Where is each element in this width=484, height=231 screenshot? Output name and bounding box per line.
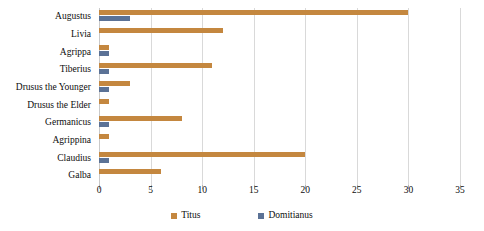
bar-titus[interactable] bbox=[99, 152, 305, 157]
bar-domitianus[interactable] bbox=[99, 16, 130, 21]
legend-item[interactable]: Titus bbox=[171, 211, 200, 221]
bar-row bbox=[99, 26, 460, 44]
bar-row bbox=[99, 8, 460, 26]
bar-domitianus[interactable] bbox=[99, 51, 109, 56]
bar-row bbox=[99, 132, 460, 150]
gridline bbox=[460, 8, 461, 185]
category-label: Livia bbox=[0, 26, 96, 44]
bar-titus[interactable] bbox=[99, 134, 109, 139]
bar-titus[interactable] bbox=[99, 116, 182, 121]
bar-titus[interactable] bbox=[99, 63, 212, 68]
category-label: Claudius bbox=[0, 150, 96, 168]
x-tick-label: 0 bbox=[97, 186, 102, 196]
legend-swatch-icon bbox=[258, 213, 264, 219]
bar-row bbox=[99, 43, 460, 61]
bar-row bbox=[99, 97, 460, 115]
category-label: Germanicus bbox=[0, 114, 96, 132]
category-label: Drusus the Elder bbox=[0, 97, 96, 115]
bar-domitianus[interactable] bbox=[99, 69, 109, 74]
x-tick-label: 35 bbox=[455, 186, 465, 196]
category-label: Agrippa bbox=[0, 43, 96, 61]
category-axis: AugustusLiviaAgrippaTiberiusDrusus the Y… bbox=[0, 8, 96, 185]
x-tick-label: 10 bbox=[197, 186, 207, 196]
bar-row bbox=[99, 114, 460, 132]
chart-legend: TitusDomitianus bbox=[0, 208, 484, 224]
bar-titus[interactable] bbox=[99, 10, 408, 15]
category-label: Drusus the Younger bbox=[0, 79, 96, 97]
x-tick-label: 15 bbox=[249, 186, 259, 196]
bar-row bbox=[99, 61, 460, 79]
bar-row bbox=[99, 150, 460, 168]
bar-titus[interactable] bbox=[99, 99, 109, 104]
bar-titus[interactable] bbox=[99, 45, 109, 50]
bar-row bbox=[99, 79, 460, 97]
bar-chart: AugustusLiviaAgrippaTiberiusDrusus the Y… bbox=[0, 0, 484, 231]
category-label: Galba bbox=[0, 167, 96, 185]
plot-area bbox=[99, 8, 460, 185]
legend-label: Titus bbox=[181, 211, 200, 221]
legend-label: Domitianus bbox=[268, 211, 312, 221]
bar-domitianus[interactable] bbox=[99, 122, 109, 127]
bar-titus[interactable] bbox=[99, 28, 223, 33]
x-tick-label: 30 bbox=[404, 186, 414, 196]
bar-domitianus[interactable] bbox=[99, 87, 109, 92]
bar-rows bbox=[99, 8, 460, 185]
legend-item[interactable]: Domitianus bbox=[258, 211, 312, 221]
x-axis: 05101520253035 bbox=[99, 186, 460, 202]
bar-titus[interactable] bbox=[99, 81, 130, 86]
x-tick-label: 20 bbox=[301, 186, 311, 196]
bar-titus[interactable] bbox=[99, 169, 161, 174]
legend-swatch-icon bbox=[171, 213, 177, 219]
x-tick-label: 5 bbox=[148, 186, 153, 196]
bar-domitianus[interactable] bbox=[99, 158, 109, 163]
category-label: Agrippina bbox=[0, 132, 96, 150]
category-label: Augustus bbox=[0, 8, 96, 26]
plot-wrapper: AugustusLiviaAgrippaTiberiusDrusus the Y… bbox=[0, 0, 484, 200]
bar-row bbox=[99, 167, 460, 185]
x-tick-label: 25 bbox=[352, 186, 362, 196]
category-label: Tiberius bbox=[0, 61, 96, 79]
